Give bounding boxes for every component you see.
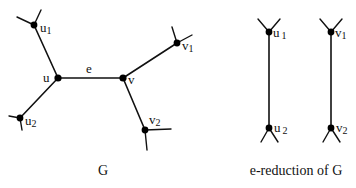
label-v: v [128,72,135,87]
stub-v2-a [145,129,171,130]
label-r-u2: u2 [274,120,288,136]
label-r-u1: u1 [273,25,287,41]
label-u: u [43,70,50,85]
node-r-u2 [266,125,273,132]
caption-e-reduction: e-reduction of G [250,163,343,178]
graph-e-reduction: u1 u2 v1 v2 e-reduction of G [250,19,348,178]
node-u1 [31,22,38,29]
node-r-v2 [328,125,335,132]
label-r-v2: v2 [336,120,348,136]
caption-g: G [98,163,108,178]
label-u2: u2 [25,113,37,129]
graph-g: u1 u u2 e v v1 v2 G [9,10,194,178]
node-r-v1 [328,29,335,36]
label-edge-e: e [86,61,92,76]
node-r-u1 [266,29,273,36]
diagram-canvas: u1 u u2 e v v1 v2 G u1 u2 v1 v2 e-reduct… [0,0,356,188]
node-u2 [17,115,24,122]
label-r-v1: v1 [335,25,347,41]
node-v1 [174,40,181,47]
label-u1: u1 [40,20,52,36]
node-v [119,74,126,81]
edge-u-u2 [20,78,58,118]
label-v2: v2 [149,112,161,128]
label-v1: v1 [182,38,194,54]
node-u [54,74,61,81]
node-v2 [142,127,149,134]
